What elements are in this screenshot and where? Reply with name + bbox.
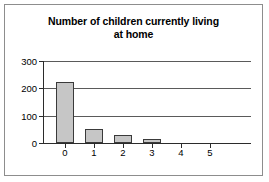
x-tick-label-3: 3 <box>149 147 154 158</box>
gridline-300 <box>43 61 251 62</box>
x-tick-label-1: 1 <box>91 147 96 158</box>
chart-title: Number of children currently living at h… <box>5 15 262 41</box>
y-tick-label-0: 0 <box>32 138 37 149</box>
gridline-200 <box>43 88 251 89</box>
x-tick-label-4: 4 <box>178 147 183 158</box>
y-tick-label-300: 300 <box>21 56 37 67</box>
bar-category-2 <box>114 135 132 143</box>
plot-area: 300 200 100 0 0 1 2 3 4 5 <box>43 61 251 144</box>
gridline-100 <box>43 116 251 117</box>
x-axis-line <box>43 143 251 144</box>
x-tick-label-0: 0 <box>62 147 67 158</box>
chart-title-line-2: at home <box>5 28 262 41</box>
bar-category-0 <box>56 82 74 143</box>
y-tick-label-100: 100 <box>21 110 37 121</box>
y-tick-label-200: 200 <box>21 83 37 94</box>
bar-category-3 <box>143 139 161 143</box>
y-axis-line <box>43 61 44 144</box>
chart-title-line-1: Number of children currently living <box>5 15 262 28</box>
bar-category-1 <box>85 129 103 143</box>
x-tick-label-5: 5 <box>207 147 212 158</box>
x-tick-label-2: 2 <box>120 147 125 158</box>
chart-frame: Number of children currently living at h… <box>4 4 263 176</box>
